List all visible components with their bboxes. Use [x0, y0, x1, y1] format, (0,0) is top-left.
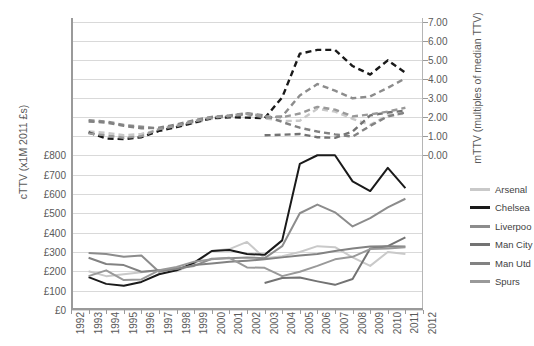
x-axis-ticklabel: 2003	[269, 312, 280, 334]
series-line-chelsea-solid	[89, 155, 406, 286]
x-axis-ticklabel: 2004	[286, 312, 297, 334]
legend-swatch-icon	[470, 206, 490, 209]
left-axis-ticklabel: £0	[55, 305, 66, 316]
x-axis-ticklabel: 1997	[163, 312, 174, 334]
legend-swatch-icon	[470, 243, 490, 246]
left-axis-title: cTTV (x1M 2011 £s)	[17, 67, 29, 237]
x-axis-ticklabel: 2011	[409, 312, 420, 334]
right-axis-ticklabel: 2.00	[428, 112, 447, 123]
x-axis-ticklabel: 2006	[321, 312, 332, 334]
left-axis-ticklabels: £0£100£200£300£400£500£600£700£800	[0, 18, 66, 310]
left-axis-ticklabel: £700	[44, 169, 66, 180]
legend-item-label: Man Utd	[495, 258, 531, 269]
x-axis-ticklabel: 1994	[110, 312, 121, 334]
left-axis-ticklabel: £200	[44, 266, 66, 277]
left-axis-line	[71, 18, 73, 310]
chart-legend: ArsenalChelseaLiverpooMan CityMan UtdSpu…	[470, 180, 534, 291]
right-axis-ticklabel: 1.00	[428, 131, 447, 142]
x-axis-ticklabel: 2001	[233, 312, 244, 334]
legend-item-label: Liverpoo	[495, 221, 531, 232]
x-axis-ticklabel: 2012	[427, 312, 438, 334]
right-axis-ticklabel: 6.00	[428, 36, 447, 47]
left-axis-ticklabel: £600	[44, 188, 66, 199]
right-axis-ticklabels: 0.001.002.003.004.005.006.007.00	[428, 18, 462, 310]
legend-swatch-icon	[470, 262, 490, 265]
left-axis-ticklabel: £800	[44, 150, 66, 161]
x-axis-ticklabel: 1992	[75, 312, 86, 334]
x-axis-ticklabel: 2002	[251, 312, 262, 334]
x-axis-ticklabel: 2008	[357, 312, 368, 334]
left-axis-ticklabel: £400	[44, 227, 66, 238]
legend-item-label: Man City	[495, 239, 532, 250]
legend-swatch-icon	[470, 280, 490, 283]
x-axis-ticklabels: 1992199319941995199619971998199920002001…	[71, 312, 423, 346]
legend-item-arsenal[interactable]: Arsenal	[470, 180, 534, 199]
legend-item-spurs[interactable]: Spurs	[470, 273, 534, 292]
right-axis-ticklabel: 7.00	[428, 17, 447, 28]
x-axis-ticklabel: 2009	[374, 312, 385, 334]
x-axis-tick	[423, 310, 424, 314]
x-axis-ticklabel: 1999	[198, 312, 209, 334]
right-axis-title: mTTV (multiples of median TTV)	[471, 3, 483, 173]
x-axis-ticklabel: 1996	[145, 312, 156, 334]
series-line-spurs-solid	[89, 247, 406, 280]
legend-item-label: Chelsea	[495, 202, 530, 213]
legend-swatch-icon	[470, 188, 490, 191]
series-lines	[71, 18, 423, 310]
left-axis-ticklabel: £500	[44, 208, 66, 219]
legend-item-label: Arsenal	[495, 184, 527, 195]
chart-figure: £0£100£200£300£400£500£600£700£800 cTTV …	[0, 0, 534, 346]
legend-swatch-icon	[470, 225, 490, 228]
right-axis-ticklabel: 5.00	[428, 55, 447, 66]
right-axis-ticklabel: 0.00	[428, 150, 447, 161]
x-axis-ticklabel: 2005	[304, 312, 315, 334]
x-axis-ticklabel: 1995	[128, 312, 139, 334]
right-axis-line	[422, 18, 423, 310]
right-axis-ticklabel: 3.00	[428, 93, 447, 104]
legend-item-man-city[interactable]: Man City	[470, 236, 534, 255]
series-line-chelsea-dashed	[89, 50, 406, 139]
x-axis-ticklabel: 2010	[392, 312, 403, 334]
x-axis-ticklabel: 1993	[93, 312, 104, 334]
x-axis-ticklabel: 2000	[216, 312, 227, 334]
x-axis-ticklabel: 1998	[181, 312, 192, 334]
x-axis-ticklabel: 2007	[339, 312, 350, 334]
plot-area	[71, 18, 423, 310]
series-line-liverpool-dashed	[89, 78, 406, 128]
series-line-man-city-solid	[265, 237, 406, 284]
left-axis-ticklabel: £300	[44, 246, 66, 257]
left-axis-ticklabel: £100	[44, 285, 66, 296]
right-axis-ticklabel: 4.00	[428, 74, 447, 85]
legend-item-liverpoo[interactable]: Liverpoo	[470, 217, 534, 236]
legend-item-label: Spurs	[495, 276, 520, 287]
legend-item-man-utd[interactable]: Man Utd	[470, 254, 534, 273]
legend-item-chelsea[interactable]: Chelsea	[470, 199, 534, 218]
